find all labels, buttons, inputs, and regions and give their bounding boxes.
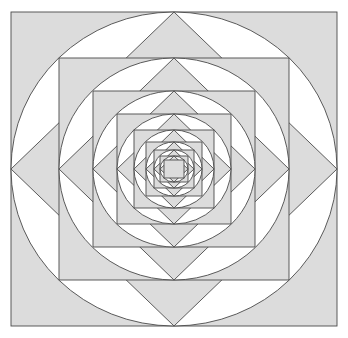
nested-shape-layer — [11, 12, 337, 326]
geometric-figure-canvas — [0, 0, 348, 338]
nested-shapes-svg — [0, 0, 348, 338]
square-level-8 — [164, 160, 184, 178]
